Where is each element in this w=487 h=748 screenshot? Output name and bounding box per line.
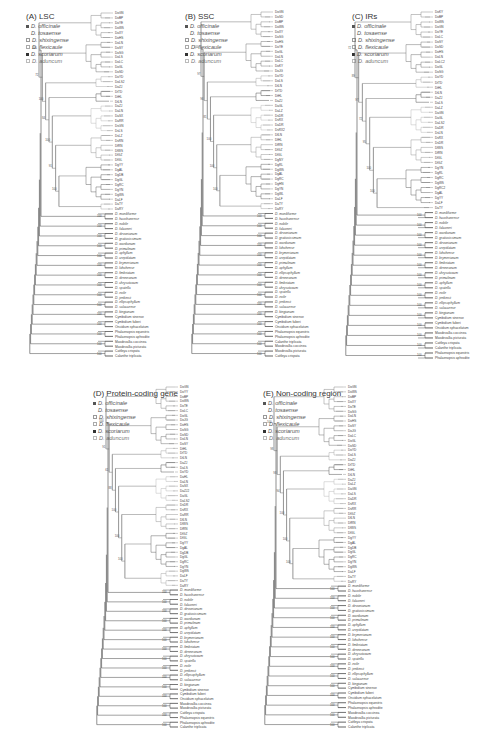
- leaf-label: D. brymerianum: [180, 636, 204, 640]
- support-value: 72: [35, 73, 39, 77]
- leaf-label: DgDB: [115, 173, 123, 177]
- leaf-label: D. salaccense: [275, 305, 296, 309]
- leaf-label: DaSX: [180, 484, 188, 488]
- leaf-label: D. kingianum: [275, 310, 294, 314]
- leaf-label: DgRL: [435, 171, 443, 175]
- leaf-label: Calanthe triplicata: [275, 340, 302, 344]
- leaf-label: DoBP: [115, 16, 123, 20]
- leaf-label: D. fimbriatum: [435, 261, 455, 265]
- leaf-label: DoGN: [435, 25, 444, 29]
- leaf-label: D. wardianum: [115, 242, 136, 246]
- leaf-label: DoHS: [435, 50, 443, 54]
- leaf-label: DoYD: [275, 74, 284, 78]
- leaf-label: DgAL: [348, 541, 356, 545]
- leaf-label: D. spatella: [115, 286, 131, 290]
- leaf-label: D. lohohense: [435, 251, 455, 255]
- leaf-label: DgRC: [115, 183, 124, 187]
- leaf-label: Phalaenopsis aphrodite: [435, 356, 470, 360]
- leaf-label: D. salaccense: [348, 677, 369, 681]
- leaf-label: Calanthe triplicata: [435, 346, 462, 350]
- leaf-label: Masdevallia picturata: [435, 336, 466, 340]
- leaf-label: DoLS: [348, 453, 356, 457]
- leaf-label: DfGL: [180, 536, 188, 540]
- leaf-label: DaGN: [435, 111, 444, 115]
- leaf-label: DoYE: [275, 45, 283, 49]
- leaf-label: DaRY: [180, 584, 188, 588]
- leaf-label: DsRX: [275, 118, 283, 122]
- leaf-label: D. falconeri: [275, 227, 292, 231]
- leaf-label: DgDB: [180, 551, 188, 555]
- leaf-label: D. crepidatum: [180, 631, 201, 635]
- leaf-label: DoJG: [348, 429, 357, 433]
- leaf-label: DsRX: [435, 136, 443, 140]
- support-value: 61: [105, 468, 109, 472]
- panel-b-ssc: (B) SSCD. officinaleD. tosaenseD. shixin…: [165, 0, 327, 370]
- leaf-label: DoLC: [348, 434, 357, 438]
- leaf-label: D. brymerianum: [435, 256, 459, 260]
- leaf-label: DaRR: [115, 119, 124, 123]
- leaf-label: DaTY: [115, 202, 123, 206]
- support-value: 100: [207, 137, 212, 141]
- leaf-label: DfLN: [180, 518, 187, 522]
- leaf-label: Cymbidium faberi: [115, 320, 141, 324]
- leaf-label: D. huoshanense: [275, 217, 299, 221]
- leaf-label: D. aphyllum: [435, 281, 453, 285]
- leaf-label: DfGL: [435, 156, 443, 160]
- leaf-label: DaGL: [435, 116, 443, 120]
- leaf-label: DoSY: [115, 46, 123, 50]
- leaf-label: DaZJ: [435, 96, 443, 100]
- leaf-label: Masdevallia coccinea: [435, 331, 467, 335]
- leaf-label: DoSG: [275, 35, 284, 39]
- leaf-label: Phalaenopsis aphrodite: [180, 721, 215, 725]
- leaf-label: DfGL: [348, 531, 356, 535]
- leaf-label: DtLN: [115, 100, 122, 104]
- leaf-label: D. denneanum: [435, 266, 457, 270]
- phylogenetic-tree: DoGNDoBPDoYEDoWSDoXYDoHSDoLNDoSYDoSGDoLS…: [0, 0, 165, 370]
- leaf-label: DfGL: [115, 158, 123, 162]
- leaf-label: DtTD: [348, 463, 356, 467]
- leaf-label: DoXY: [275, 30, 283, 34]
- leaf-label: D. kingianum: [180, 683, 199, 687]
- leaf-label: D. primulinum: [180, 621, 201, 625]
- leaf-label: D. exile: [348, 662, 359, 666]
- leaf-label: D. huoshanense: [348, 589, 372, 593]
- leaf-label: D. devonianum: [275, 231, 297, 235]
- leaf-label: DgYY: [348, 536, 356, 540]
- leaf-label: Phalaenopsis equestris: [348, 701, 382, 705]
- leaf-label: DgRC: [180, 560, 189, 564]
- leaf-label: Phalaenopsis aphrodite: [115, 335, 150, 339]
- leaf-label: D. falconeri: [180, 603, 197, 607]
- leaf-label: DgAL: [115, 168, 123, 172]
- leaf-label: DgAL: [435, 191, 443, 195]
- support-value: 100: [45, 138, 50, 142]
- leaf-label: DaLN: [115, 109, 123, 113]
- leaf-label: D. falconeri: [115, 227, 132, 231]
- leaf-label: DaZJ2: [180, 489, 189, 493]
- leaf-label: DaLZ: [348, 482, 356, 486]
- leaf-label: DaLF: [275, 197, 283, 201]
- leaf-label: Cymbidium faberi: [348, 691, 374, 695]
- leaf-label: DgNY: [275, 158, 283, 162]
- leaf-label: D. gratiosissimum: [348, 609, 374, 613]
- leaf-label: Masdevallia coccinea: [180, 702, 212, 706]
- leaf-label: D. huoshanense: [435, 216, 459, 220]
- leaf-label: D. lohohense: [275, 246, 295, 250]
- support-value: 100: [286, 560, 291, 564]
- leaf-label: DgRC: [435, 176, 444, 180]
- leaf-label: D. exile: [115, 291, 126, 295]
- leaf-label: D. falconeri: [348, 599, 365, 603]
- leaf-label: D. jenkinsii: [275, 300, 291, 304]
- leaf-label: DoBP: [180, 395, 188, 399]
- leaf-label: D. jenkinsii: [348, 667, 364, 671]
- leaf-label: DsLN: [435, 131, 443, 135]
- leaf-label: Cymbidium faberi: [435, 321, 461, 325]
- leaf-label: DaLF: [435, 201, 443, 205]
- leaf-label: DfGZ: [180, 532, 188, 536]
- leaf-label: Cymbidium sinense: [348, 686, 377, 690]
- leaf-label: D. chrysotoxum: [115, 281, 138, 285]
- leaf-label: DoWS: [348, 390, 357, 394]
- leaf-label: DgWS: [180, 569, 189, 573]
- leaf-label: DsRX2: [275, 128, 285, 132]
- leaf-label: D. moniliforme: [180, 588, 201, 592]
- leaf-label: D. crepidatum: [435, 246, 456, 250]
